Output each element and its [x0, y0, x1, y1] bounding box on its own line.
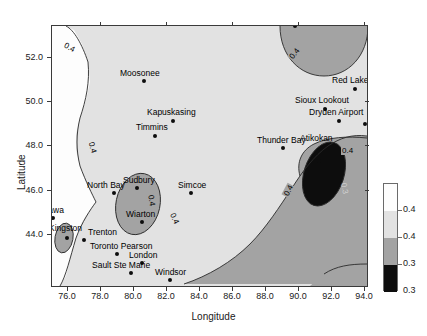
x-tick-label-94: 94.0 [344, 291, 384, 301]
x-tick-top-78 [100, 22, 101, 26]
colorbar-label-1: 0.4 [403, 231, 416, 241]
station-label-trenton: Trenton [88, 228, 117, 237]
colorbar-label-2: 0.3 [403, 258, 416, 268]
station-dot-kapuskasing[interactable] [171, 119, 175, 123]
station-label-sudbury: Sudbury [123, 176, 155, 185]
y-tick-right-50 [365, 101, 369, 102]
station-dot-kingston[interactable] [65, 236, 69, 240]
station-dot-windsor[interactable] [168, 278, 172, 282]
colorbar-tick-2 [398, 264, 402, 265]
x-tick-top-86 [232, 22, 233, 26]
station-label-wiarton: Wiarton [126, 210, 155, 219]
contour-map-figure: 0.4 0.4 0.4 0.4 0.4 0.4 0.4 0.3 Big Trou… [0, 0, 427, 336]
y-tick-46 [47, 190, 51, 191]
y-tick-label-52: 52.0 [3, 52, 43, 62]
colorbar-segment-white [384, 184, 397, 211]
colorbar-label-0: 0.4 [403, 204, 416, 214]
station-dot-toronto-pearson[interactable] [115, 252, 119, 256]
station-dot-sault-ste-marie[interactable] [129, 271, 133, 275]
station-label-sioux-lookout: Sioux Lookout [295, 96, 349, 105]
station-label-atikokan: Atikokan [300, 134, 333, 143]
station-dot-kenora[interactable] [363, 122, 367, 126]
station-dot-ottawa[interactable] [51, 216, 55, 220]
station-label-ottawa: Ottawa [51, 206, 64, 215]
y-tick-right-46 [365, 190, 369, 191]
station-dot-sudbury[interactable] [135, 186, 139, 190]
station-label-london: London [129, 251, 157, 260]
colorbar [383, 183, 398, 291]
contour-label-3: 0.4 [341, 146, 354, 155]
x-tick-top-82 [166, 22, 167, 26]
station-label-dryden-airport: Dryden Airport [309, 108, 363, 117]
station-label-kapuskasing: Kapuskasing [147, 108, 196, 117]
station-dot-trenton[interactable] [82, 238, 86, 242]
station-label-red-lake: Red Lake [332, 76, 368, 85]
station-dot-atikokan[interactable] [317, 159, 321, 163]
station-label-simcoe: Simcoe [178, 181, 206, 190]
station-label-north-bay: North Bay [87, 181, 125, 190]
station-dot-simcoe[interactable] [189, 191, 193, 195]
station-dot-red-lake[interactable] [353, 87, 357, 91]
y-tick-52 [47, 57, 51, 58]
station-dot-dryden-airport[interactable] [337, 119, 341, 123]
colorbar-tick-0 [398, 210, 402, 211]
x-tick-top-90 [298, 22, 299, 26]
y-tick-44 [47, 234, 51, 235]
station-dot-thunder-bay[interactable] [281, 146, 285, 150]
y-tick-label-50: 50.0 [3, 96, 43, 106]
colorbar-segment-mid-gray [384, 238, 397, 265]
station-label-windsor: Windsor [155, 268, 186, 277]
station-label-timmins: Timmins [136, 123, 168, 132]
x-axis-title: Longitude [0, 311, 427, 322]
y-tick-50 [47, 101, 51, 102]
x-tick-top-94 [364, 22, 365, 26]
colorbar-label-3: 0.3 [403, 285, 416, 295]
y-tick-label-48: 48.0 [3, 140, 43, 150]
station-dot-north-bay[interactable] [112, 191, 116, 195]
station-label-sault-ste-marie: Sault Ste Marie [92, 261, 150, 270]
colorbar-tick-1 [398, 237, 402, 238]
y-tick-label-44: 44.0 [3, 229, 43, 239]
station-dot-timmins[interactable] [153, 134, 157, 138]
y-tick-right-48 [365, 145, 369, 146]
station-label-kingston: Kingston [51, 224, 82, 233]
y-axis-title: Latitude [16, 154, 27, 190]
station-dot-wiarton[interactable] [140, 220, 144, 224]
colorbar-segment-light-gray [384, 211, 397, 238]
y-tick-48 [47, 145, 51, 146]
colorbar-segment-black [384, 265, 397, 292]
plot-area: 0.4 0.4 0.4 0.4 0.4 0.4 0.4 0.3 Big Trou… [51, 25, 368, 287]
station-label-thunder-bay: Thunder Bay [257, 136, 306, 145]
station-dot-moosonee[interactable] [142, 79, 146, 83]
station-label-moosonee: Moosonee [120, 69, 160, 78]
